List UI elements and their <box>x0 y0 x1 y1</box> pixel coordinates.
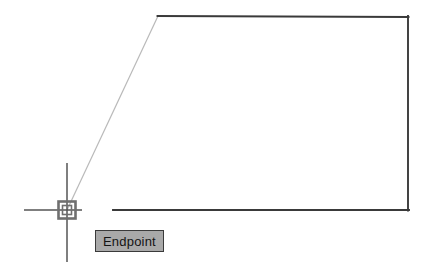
rubber-band-line <box>67 16 158 210</box>
drawing-area[interactable] <box>0 0 430 280</box>
osnap-tooltip-label: Endpoint <box>103 235 156 248</box>
polyline-top-edge[interactable] <box>158 16 409 17</box>
cad-drawing-canvas[interactable]: Endpoint <box>0 0 430 280</box>
osnap-tooltip: Endpoint <box>95 230 164 252</box>
